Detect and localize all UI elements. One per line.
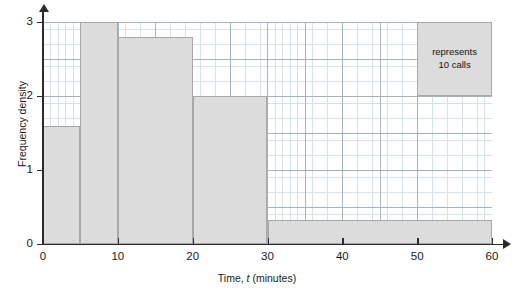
y-tick-1 bbox=[37, 170, 43, 171]
y-axis-arrow bbox=[39, 4, 49, 12]
histogram-bar-bin-10-20 bbox=[118, 37, 193, 244]
x-tick-0 bbox=[43, 238, 44, 244]
y-axis-title: Frequency density bbox=[16, 54, 28, 194]
x-tick-30 bbox=[268, 238, 269, 244]
x-tick-label-30: 30 bbox=[248, 250, 288, 262]
histogram-figure: represents 10 calls 01020304050600123 Ti… bbox=[0, 0, 514, 298]
x-axis-title-suffix: (minutes) bbox=[250, 272, 297, 284]
plot-area: represents 10 calls bbox=[43, 22, 492, 244]
x-tick-label-50: 50 bbox=[397, 250, 437, 262]
legend-line-2: 10 calls bbox=[438, 59, 470, 72]
x-tick-60 bbox=[492, 238, 493, 244]
x-tick-40 bbox=[342, 238, 343, 244]
legend-key-box: represents 10 calls bbox=[417, 22, 492, 96]
legend-line-1: represents bbox=[432, 46, 477, 59]
y-axis-line bbox=[42, 12, 44, 245]
y-tick-0 bbox=[37, 244, 43, 245]
x-axis-title-prefix: Time, bbox=[218, 272, 247, 284]
y-tick-3 bbox=[37, 22, 43, 23]
x-tick-label-0: 0 bbox=[23, 250, 63, 262]
x-tick-label-60: 60 bbox=[472, 250, 512, 262]
x-tick-label-10: 10 bbox=[98, 250, 138, 262]
y-tick-label-0: 0 bbox=[15, 237, 33, 249]
x-axis-line bbox=[43, 244, 505, 246]
histogram-bar-bin-0-5 bbox=[43, 126, 80, 244]
histogram-bar-bin-20-30 bbox=[193, 96, 268, 244]
x-axis-arrow bbox=[503, 239, 511, 249]
histogram-bar-bin-30-60 bbox=[268, 220, 493, 244]
x-axis-title: Time, t (minutes) bbox=[0, 272, 514, 284]
y-tick-label-3: 3 bbox=[15, 15, 33, 27]
x-tick-50 bbox=[417, 238, 418, 244]
x-tick-label-20: 20 bbox=[173, 250, 213, 262]
x-tick-label-40: 40 bbox=[322, 250, 362, 262]
histogram-bar-bin-5-10 bbox=[80, 22, 117, 244]
y-tick-2 bbox=[37, 96, 43, 97]
x-tick-20 bbox=[193, 238, 194, 244]
x-tick-10 bbox=[118, 238, 119, 244]
